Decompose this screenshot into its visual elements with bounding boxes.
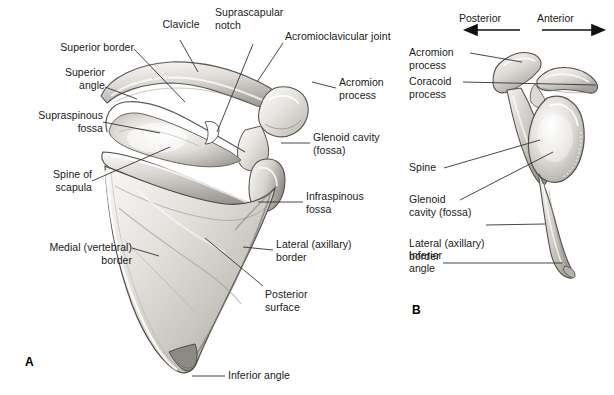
anterior-arrowhead [592,25,604,35]
label-b-inferior-angle: Inferior angle [409,249,475,274]
label-lateral-axillary-border: Lateral (axillary) border [276,238,372,263]
panel-marker-b: B [412,303,421,317]
label-supraspinous-fossa: Supraspinous fossa [12,109,103,134]
direction-arrows [465,25,604,35]
label-acromioclavicular-joint: Acromioclavicular joint [285,30,415,43]
panel-a-illustration [85,40,335,375]
label-b-acromion-process: Acromion process [409,46,475,71]
label-suprascapular-notch: Suprascapular notch [215,6,299,31]
label-posterior-direction: Posterior [459,12,501,24]
label-b-spine: Spine [409,161,459,174]
scapula-anatomy-figure: Clavicle Suprascapular notch Acromioclav… [0,0,614,395]
label-superior-border: Superior border [44,41,134,54]
posterior-arrowhead [465,25,477,35]
label-medial-vertebral-border: Medial (vertebral) border [22,241,132,266]
label-anterior-direction: Anterior [537,12,574,24]
label-acromion-process: Acromion process [339,76,409,101]
label-b-glenoid-cavity-fossa: Glenoid cavity (fossa) [409,193,499,218]
label-b-coracoid-process: Coracoid process [409,75,475,100]
label-clavicle: Clavicle [152,18,210,31]
panel-marker-a: A [25,355,34,369]
label-posterior-surface: Posterior surface [265,288,339,313]
label-inferior-angle: Inferior angle [228,369,308,382]
label-spine-of-scapula: Spine of scapula [25,168,92,193]
label-superior-angle: Superior angle [35,66,105,91]
label-glenoid-cavity-fossa: Glenoid cavity (fossa) [313,131,403,156]
label-infraspinous-fossa: Infraspinous fossa [306,190,386,215]
